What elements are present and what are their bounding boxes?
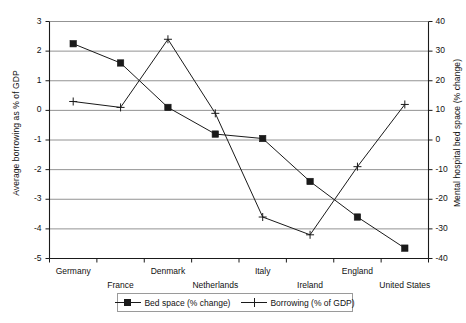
plus-marker-icon [241,298,267,308]
y-tick-right-6: -20 [436,193,460,203]
x-category-label-2: Denmark [151,266,185,276]
x-category-label-5: Ireland [297,280,323,290]
y-tick-left-1: 2 [20,45,42,55]
legend-item-borrowing: Borrowing (% of GDP) [241,298,354,308]
y-tick-right-7: -30 [436,223,460,233]
y-tick-left-8: -5 [20,253,42,263]
y-tick-left-3: 0 [20,104,42,114]
y-tick-right-3: 10 [436,104,460,114]
y-axis-right-ticks [429,22,433,259]
y-tick-left-6: -3 [20,193,42,203]
x-category-label-7: United States [379,280,430,290]
y-tick-left-2: 1 [20,75,42,85]
chart-container: Average borrowing as % of GDP Mental hos… [0,0,466,323]
gridlines [50,51,429,229]
y-tick-right-8: -40 [436,253,460,263]
y-tick-left-7: -4 [20,223,42,233]
y-tick-right-2: 20 [436,75,460,85]
series-layer [69,35,409,251]
series-bed-space [70,41,408,252]
y-tick-left-4: -1 [20,134,42,144]
legend-label-bed-space: Bed space (% change) [144,298,230,308]
x-category-label-6: England [342,266,373,276]
y-tick-right-4: 0 [436,134,460,144]
y-tick-left-5: -2 [20,164,42,174]
y-tick-right-1: 30 [436,45,460,55]
x-category-label-4: Italy [255,266,271,276]
x-category-label-1: France [107,280,133,290]
x-category-label-0: Germany [56,266,91,276]
x-category-label-3: Netherlands [192,280,238,290]
y-axis-left-ticks [46,22,50,259]
y-tick-right-5: -10 [436,164,460,174]
x-axis-ticks [50,259,429,263]
legend-label-borrowing: Borrowing (% of GDP) [270,298,354,308]
y-tick-left-0: 3 [20,16,42,26]
y-tick-right-0: 40 [436,16,460,26]
square-marker-icon [115,298,141,308]
chart-legend: Bed space (% change) Borrowing (% of GDP… [117,293,353,312]
legend-item-bed-space: Bed space (% change) [115,298,230,308]
